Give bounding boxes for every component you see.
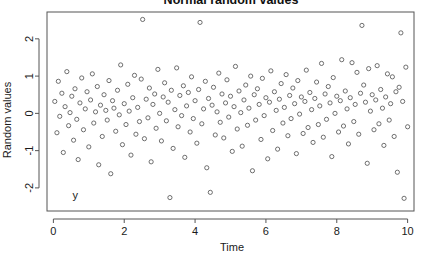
y-axis-tick-label: 1 bbox=[23, 73, 35, 79]
chart-page: Normal random values 0246810 -2-1012 y T… bbox=[0, 0, 427, 261]
y-axis-label: Random values bbox=[1, 81, 13, 158]
x-axis-label: Time bbox=[220, 241, 244, 253]
x-axis-tick-label: 10 bbox=[401, 225, 413, 237]
chart-title-text: Normal random values bbox=[164, 0, 299, 7]
y-axis-tick-label: -2 bbox=[23, 183, 35, 193]
chart-title: Normal random values bbox=[164, 0, 299, 7]
y-axis-tick-label: -1 bbox=[23, 146, 35, 156]
y-axis-tick-label: 2 bbox=[23, 36, 35, 42]
scatter-plot: Normal random values 0246810 -2-1012 y T… bbox=[0, 0, 427, 261]
plot-annotations: y bbox=[73, 189, 79, 201]
plot-annotation-label: y bbox=[73, 189, 79, 201]
x-axis-tick-label: 4 bbox=[192, 225, 198, 237]
y-axis-tick-label: 0 bbox=[23, 110, 35, 116]
plot-background bbox=[0, 0, 427, 261]
x-axis-tick-label: 0 bbox=[50, 225, 56, 237]
x-axis-tick-label: 8 bbox=[334, 225, 340, 237]
x-axis-tick-label: 2 bbox=[121, 225, 127, 237]
x-axis-tick-label: 6 bbox=[263, 225, 269, 237]
